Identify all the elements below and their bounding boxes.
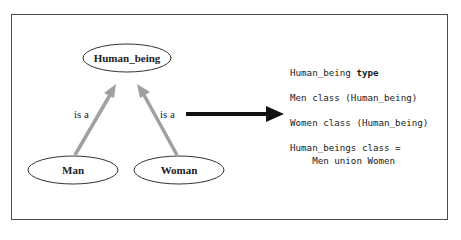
- edge-man-is-a: is a: [74, 84, 116, 155]
- translation-arrow-icon: [186, 106, 284, 122]
- code-line-men: Men class (Human_being): [290, 91, 428, 104]
- node-label: Woman: [161, 164, 198, 176]
- node-human-being: Human_being: [83, 44, 171, 72]
- code-line-type: Human_being type: [290, 66, 428, 79]
- code-line-human-beings: Human_beings class =: [290, 141, 428, 154]
- edge-label: is a: [160, 108, 175, 120]
- node-label: Human_being: [94, 52, 161, 64]
- type-name: Human_being: [290, 67, 356, 78]
- code-line-union: Men union Women: [290, 154, 428, 167]
- edge-label: is a: [74, 108, 89, 120]
- keyword-type: type: [356, 67, 378, 78]
- edge-woman-is-a: is a: [137, 84, 177, 155]
- node-label: Man: [62, 164, 84, 176]
- code-block: Human_being type Men class (Human_being)…: [290, 66, 428, 167]
- node-man: Man: [28, 156, 118, 184]
- arrowhead-icon: [104, 84, 116, 98]
- node-woman: Woman: [134, 156, 224, 184]
- code-line-women: Women class (Human_being): [290, 116, 428, 129]
